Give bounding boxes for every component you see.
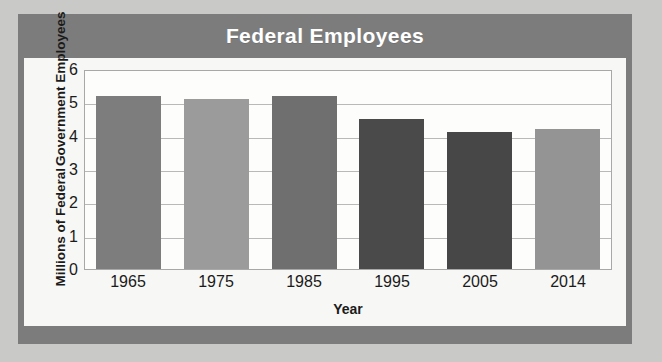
bar-slot [173,71,261,269]
bar [272,96,337,269]
chart-title-band: Federal Employees [18,14,632,58]
chart-figure: Federal Employees Millions of Federal Go… [0,0,662,362]
bar-slot [348,71,436,269]
bar [184,99,249,269]
bar-slot [523,71,611,269]
plot-area-wrapper: 0123456 196519751985199520052014 [84,70,612,280]
bar-slot [85,71,173,269]
y-axis-tick-label: 5 [50,94,78,112]
bar [535,129,600,269]
bar-slot [260,71,348,269]
bar-series [85,71,611,269]
bar [96,96,161,269]
x-axis-title: Year [84,301,612,317]
y-axis-tick-label: 2 [50,194,78,212]
chart-frame: Federal Employees Millions of Federal Go… [18,14,632,344]
chart-title: Federal Employees [226,24,424,48]
y-axis-tick-label: 6 [50,61,78,79]
x-axis-tick-label: 1975 [172,273,260,291]
bar-slot [436,71,524,269]
x-axis-tick-label: 2014 [524,273,612,291]
plot-area [84,70,612,270]
x-axis-tick-label: 1995 [348,273,436,291]
chart-card: Millions of Federal Government Employees… [24,58,626,326]
x-axis-tick-label: 1965 [84,273,172,291]
x-axis-tick-label: 2005 [436,273,524,291]
x-axis-tick-label: 1985 [260,273,348,291]
bar [359,119,424,269]
y-axis-tick-labels: 0123456 [50,70,78,270]
y-axis-tick-label: 3 [50,161,78,179]
bar [447,132,512,269]
x-axis-tick-labels: 196519751985199520052014 [84,273,612,291]
y-axis-tick-label: 0 [50,261,78,279]
y-axis-tick-label: 1 [50,228,78,246]
y-axis-tick-label: 4 [50,128,78,146]
